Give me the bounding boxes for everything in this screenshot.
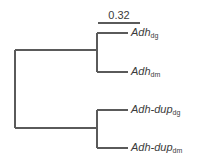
tip-name-adh-dup-dm: Adh-dup [131,141,173,153]
scale-bar-value: 0.32 [108,9,129,21]
tip-label-adh-dm: Adhdm [131,66,160,77]
tip-subscript-adh-dm: dm [151,71,161,78]
tip-label-adh-dg: Adhdg [131,27,158,38]
scale-bar-label: 0.32 [98,10,140,21]
tip-subscript-adh-dg: dg [151,32,159,39]
tip-subscript-adh-dup-dm: dm [173,147,183,154]
tip-label-adh-dup-dg: Adh-dupdg [131,104,180,115]
tip-name-adh-dg: Adh [131,26,151,38]
tip-name-adh-dm: Adh [131,65,151,77]
tip-name-adh-dup-dg: Adh-dup [131,103,173,115]
tree-branches-svg [0,0,197,164]
phylogenetic-tree-figure: 0.32 Adhdg Adhdm Adh-dupdg Adh-dupdm [0,0,197,164]
tip-label-adh-dup-dm: Adh-dupdm [131,142,182,153]
tip-subscript-adh-dup-dg: dg [173,109,181,116]
